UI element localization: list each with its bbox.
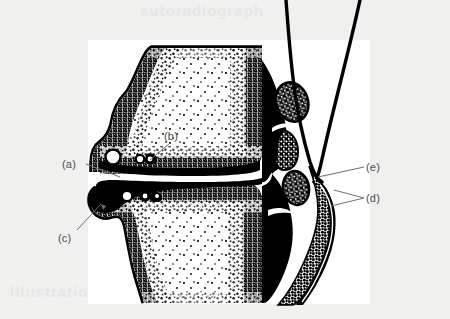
figure-panel: autoradiograph illustration section xyxy=(0,0,450,319)
callout-label-b: (b) xyxy=(164,130,178,142)
callout-label-e: (e) xyxy=(366,161,380,173)
upper-bone xyxy=(88,44,270,178)
callout-label-a: (a) xyxy=(62,158,76,170)
lower-bone xyxy=(86,178,270,306)
callout-label-c: (c) xyxy=(58,232,71,244)
callout-label-d: (d) xyxy=(366,192,380,204)
